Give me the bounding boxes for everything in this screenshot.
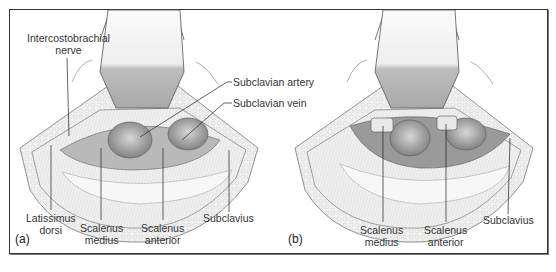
label-line: Scalenus (360, 224, 403, 236)
panel-b-illustration (295, 10, 533, 242)
label-line: Latissimus (26, 212, 76, 224)
label-scalenus-anterior-b: Scalenus anterior (424, 224, 467, 248)
panel-label-b: (b) (288, 232, 303, 246)
label-line: medius (80, 234, 123, 246)
label-line: nerve (27, 44, 110, 56)
label-scalenus-medius-b: Scalenus medius (360, 224, 403, 248)
label-line: anterior (424, 236, 467, 248)
label-line: Scalenus (80, 222, 123, 234)
label-subclavius-b: Subclavius (483, 214, 534, 226)
label-line: anterior (141, 234, 184, 246)
label-scalenus-medius-a: Scalenus medius (80, 222, 123, 246)
label-line: Scalenus (424, 224, 467, 236)
label-scalenus-anterior-a: Scalenus anterior (141, 222, 184, 246)
label-latissimus-dorsi: Latissimus dorsi (26, 212, 76, 236)
label-line: medius (360, 236, 403, 248)
label-line: Intercostobrachial (27, 32, 110, 44)
label-subclavian-artery: Subclavian artery (233, 76, 314, 88)
label-line: dorsi (26, 224, 76, 236)
label-intercostobrachial-nerve: Intercostobrachial nerve (27, 32, 110, 56)
label-subclavius-a: Subclavius (203, 212, 254, 224)
panel-label-a: (a) (15, 232, 30, 246)
label-line: Scalenus (141, 222, 184, 234)
label-subclavian-vein: Subclavian vein (233, 97, 307, 109)
